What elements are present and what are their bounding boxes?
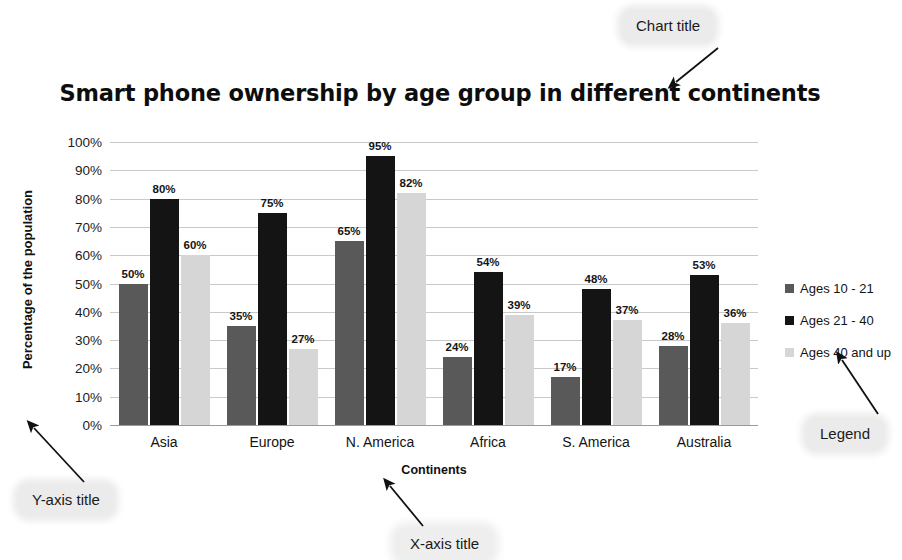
bar-fill xyxy=(335,241,364,425)
legend-item-label: Ages 21 - 40 xyxy=(800,313,874,328)
callout-chart-title-arrow xyxy=(660,44,740,92)
y-axis-tick: 50% xyxy=(38,276,102,291)
bar-value-label: 48% xyxy=(584,273,607,285)
bar-group: 35%75%27% xyxy=(227,142,318,425)
y-axis-tick: 100% xyxy=(38,135,102,150)
bar-value-label: 28% xyxy=(661,330,684,342)
bar-fill xyxy=(505,315,534,425)
callout-y-axis-title-arrow xyxy=(22,420,112,490)
callout-x-axis-title-arrow xyxy=(378,478,438,533)
bar-fill xyxy=(443,357,472,425)
y-axis-tick: 10% xyxy=(38,389,102,404)
y-axis-tick-labels: 100%90%80%70%60%50%40%30%20%10%0% xyxy=(36,142,102,425)
bar-fill xyxy=(582,289,611,425)
legend-swatch-icon xyxy=(785,316,794,325)
bar-value-label: 95% xyxy=(368,140,391,152)
bar-group: 50%80%60% xyxy=(119,142,210,425)
y-axis-tick: 40% xyxy=(38,304,102,319)
bar-fill xyxy=(690,275,719,425)
x-axis-title: Continents xyxy=(110,463,758,477)
bar-value-label: 60% xyxy=(183,239,206,251)
bar-value-label: 35% xyxy=(229,310,252,322)
bar-fill xyxy=(119,284,148,426)
bar-fill xyxy=(289,349,318,425)
legend-swatch-icon xyxy=(785,284,794,293)
legend-item[interactable]: Ages 10 - 21 xyxy=(785,272,902,304)
bar-value-label: 82% xyxy=(399,177,422,189)
bar-fill xyxy=(181,255,210,425)
x-axis-tick-labels: AsiaEuropeN. AmericaAfricaS. AmericaAust… xyxy=(110,434,758,458)
axis-baseline xyxy=(110,425,758,426)
bar-value-label: 53% xyxy=(692,259,715,271)
bar-fill xyxy=(659,346,688,425)
y-axis-tick: 30% xyxy=(38,333,102,348)
bar-value-label: 54% xyxy=(476,256,499,268)
bar-value-label: 37% xyxy=(615,304,638,316)
bar-group: 28%53%36% xyxy=(659,142,750,425)
y-axis-tick: 90% xyxy=(38,163,102,178)
bar-group: 17%48%37% xyxy=(551,142,642,425)
bar-group: 65%95%82% xyxy=(335,142,426,425)
callout-legend: Legend xyxy=(806,418,884,450)
y-axis-tick: 20% xyxy=(38,361,102,376)
x-axis-tick: S. America xyxy=(562,434,630,450)
callout-chart-title: Chart title xyxy=(622,10,714,42)
bar-value-label: 39% xyxy=(507,299,530,311)
x-axis-tick: Asia xyxy=(150,434,177,450)
bar-fill xyxy=(150,199,179,425)
x-axis-tick: Africa xyxy=(470,434,506,450)
chart-title: Smart phone ownership by age group in di… xyxy=(0,80,880,106)
bar-value-label: 50% xyxy=(121,268,144,280)
bar-value-label: 17% xyxy=(553,361,576,373)
bar-value-label: 75% xyxy=(260,197,283,209)
bar-fill xyxy=(366,156,395,425)
y-axis-title: Percentage of the population xyxy=(20,170,35,390)
bar-value-label: 65% xyxy=(337,225,360,237)
y-axis-tick: 70% xyxy=(38,219,102,234)
bar-group: 24%54%39% xyxy=(443,142,534,425)
y-axis-tick: 60% xyxy=(38,248,102,263)
legend-item-label: Ages 10 - 21 xyxy=(800,281,874,296)
legend-swatch-icon xyxy=(785,348,794,357)
plot-area: 50%80%60%35%75%27%65%95%82%24%54%39%17%4… xyxy=(110,142,758,425)
bar-fill xyxy=(397,193,426,425)
legend-item[interactable]: Ages 21 - 40 xyxy=(785,304,902,336)
bar-fill xyxy=(721,323,750,425)
y-axis-tick: 80% xyxy=(38,191,102,206)
x-axis-tick: Europe xyxy=(249,434,294,450)
bar-value-label: 27% xyxy=(291,333,314,345)
x-axis-tick: N. America xyxy=(346,434,414,450)
bar-fill xyxy=(258,213,287,425)
callout-legend-arrow xyxy=(830,352,900,422)
bar-fill xyxy=(613,320,642,425)
bar-value-label: 36% xyxy=(723,307,746,319)
bar-fill xyxy=(474,272,503,425)
bar-fill xyxy=(227,326,256,425)
bar-fill xyxy=(551,377,580,425)
x-axis-tick: Australia xyxy=(677,434,731,450)
bar-value-label: 24% xyxy=(445,341,468,353)
bar-value-label: 80% xyxy=(152,183,175,195)
